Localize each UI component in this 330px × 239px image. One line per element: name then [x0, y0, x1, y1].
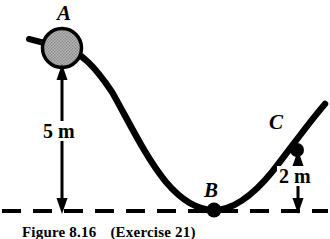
caption-reference: Figure 8.16	[22, 224, 96, 239]
point-label-c: C	[269, 112, 283, 133]
caption-exercise: (Exercise 21)	[110, 224, 195, 239]
dimension-label-height-a: 5 m	[41, 121, 77, 141]
figure-caption: Figure 8.16(Exercise 21)	[22, 224, 196, 239]
point-label-b: B	[204, 180, 218, 201]
physics-figure: A B C 5 m 2 m Figure 8.16(Exercise 21)	[0, 0, 330, 239]
dimension-label-height-c: 2 m	[277, 166, 313, 186]
ball-icon	[43, 29, 82, 68]
point-marker-b-icon	[207, 203, 222, 218]
point-label-a: A	[57, 3, 71, 24]
